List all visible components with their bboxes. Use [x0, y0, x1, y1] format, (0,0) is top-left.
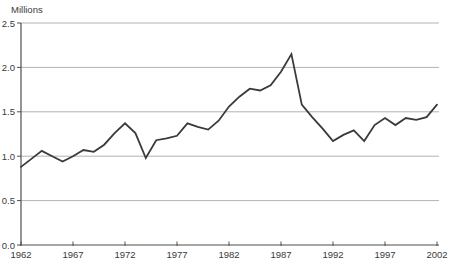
x-tick-label: 1977 [166, 249, 187, 260]
y-tick-label: 1.0 [2, 151, 15, 162]
x-tick-label: 1982 [218, 249, 239, 260]
chart-figure: Millions 0.00.51.01.52.02.51962196719721… [0, 0, 449, 266]
y-axis-unit-label: Millions [11, 4, 43, 15]
x-tick-label: 1967 [62, 249, 83, 260]
data-line [21, 54, 437, 167]
tick-labels: 0.00.51.01.52.02.51962196719721977198219… [2, 18, 448, 261]
gridlines [21, 23, 439, 201]
y-tick-label: 2.5 [2, 18, 15, 29]
axes [17, 23, 439, 246]
y-tick-label: 2.0 [2, 62, 15, 73]
y-tick-label: 1.5 [2, 106, 15, 117]
x-tick-label: 1972 [114, 249, 135, 260]
x-tick-label: 1997 [374, 249, 395, 260]
y-tick-label: 0.5 [2, 195, 15, 206]
x-tick-label: 1962 [10, 249, 31, 260]
line-chart: Millions 0.00.51.01.52.02.51962196719721… [0, 0, 449, 266]
x-tick-label: 1992 [322, 249, 343, 260]
x-tick-label: 1987 [270, 249, 291, 260]
x-tick-label: 2002 [426, 249, 447, 260]
